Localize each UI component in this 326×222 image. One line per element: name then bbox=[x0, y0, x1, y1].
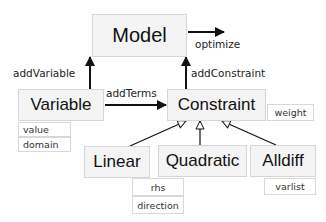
linear-attr-rhs: rhs bbox=[132, 178, 184, 196]
model-node: Model bbox=[92, 14, 187, 57]
add-variable-label: addVariable bbox=[13, 67, 75, 79]
quadratic-label: Quadratic bbox=[166, 151, 240, 171]
alldiff-node: Alldiff bbox=[250, 145, 316, 177]
model-label: Model bbox=[112, 24, 166, 47]
variable-label: Variable bbox=[30, 95, 91, 115]
quadratic-node: Quadratic bbox=[158, 145, 247, 177]
variable-attr-domain: domain bbox=[18, 137, 71, 152]
linear-label: Linear bbox=[93, 152, 140, 172]
add-constraint-label: addConstraint bbox=[191, 67, 265, 79]
alldiff-attr-varlist: varlist bbox=[264, 178, 316, 195]
linear-inherits-arrow bbox=[130, 121, 186, 146]
optimize-label: optimize bbox=[195, 38, 240, 50]
constraint-label: Constraint bbox=[178, 95, 255, 115]
add-terms-label: addTerms bbox=[106, 87, 157, 99]
constraint-attr-weight: weight bbox=[267, 104, 314, 121]
variable-node: Variable bbox=[18, 89, 104, 121]
linear-node: Linear bbox=[84, 146, 150, 178]
constraint-node: Constraint bbox=[167, 89, 266, 121]
linear-attr-direction: direction bbox=[132, 196, 184, 214]
variable-attr-value: value bbox=[18, 122, 71, 137]
alldiff-inherits-arrow bbox=[222, 121, 276, 145]
alldiff-label: Alldiff bbox=[262, 151, 303, 171]
